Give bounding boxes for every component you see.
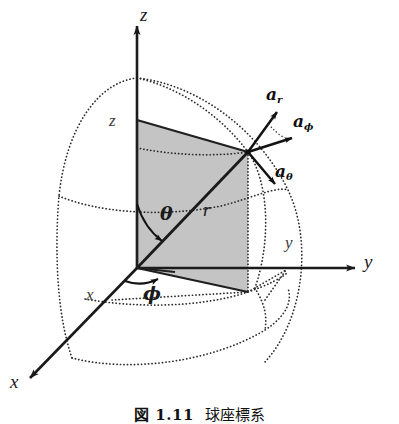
x-axis-line — [30, 268, 137, 378]
projection-connector-right2 — [265, 270, 286, 300]
shaded-regions — [137, 120, 248, 292]
y-axis-label: y — [364, 252, 372, 271]
x-axis-label: x — [10, 372, 18, 391]
unit-vector-a-theta-sub: θ — [286, 171, 293, 182]
unit-vector-a-r-base: a — [266, 84, 277, 104]
unit-vector-a-r-label: ar — [266, 86, 282, 103]
unit-vector-a-theta-base: a — [275, 161, 286, 181]
figure-caption-text: 球座標系 — [205, 406, 265, 424]
z-axis-label: z — [140, 5, 147, 24]
phi-angle-label: ϕ — [143, 284, 161, 303]
theta-angle-label: θ — [160, 204, 173, 223]
unit-vector-a-r-sub: r — [277, 94, 282, 105]
meridian-right-lower — [255, 288, 266, 330]
unit-vector-a-theta-arrow — [248, 152, 275, 184]
z-projection-label: z — [109, 112, 116, 129]
projection-line-x — [112, 292, 248, 300]
radius-label: r — [203, 200, 210, 219]
unit-vector-a-phi-base: a — [293, 111, 304, 131]
right-angle-hint — [268, 124, 283, 137]
unit-vector-a-phi-label: aϕ — [293, 113, 313, 130]
spherical-coordinate-diagram — [0, 0, 399, 424]
figure-caption-number: 図 1.11 — [134, 406, 194, 424]
figure-container: z y x z y x θ ϕ r ar aϕ aθ 図 1.11球座標系 — [0, 0, 399, 424]
figure-caption: 図 1.11球座標系 — [0, 403, 399, 424]
y-projection-label: y — [285, 234, 293, 251]
unit-vector-a-theta-label: aθ — [275, 163, 293, 180]
projection-connector-right — [248, 270, 286, 292]
unit-vector-a-r-arrow — [248, 112, 277, 152]
meridian-outer-left — [57, 78, 137, 358]
point-p-marker — [245, 149, 250, 154]
x-projection-label: x — [86, 286, 94, 303]
unit-vector-a-phi-sub: ϕ — [304, 121, 313, 132]
